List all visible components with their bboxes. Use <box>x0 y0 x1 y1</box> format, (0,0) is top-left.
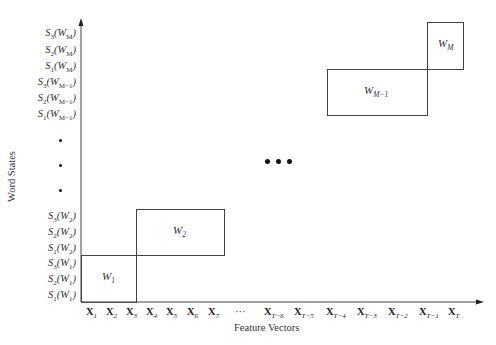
word-box-w2: W2 <box>136 209 225 256</box>
word-box-w1: W1 <box>81 255 137 303</box>
y-label: S1(WM) <box>45 60 76 76</box>
x-axis-title: Feature Vectors <box>234 322 299 333</box>
y-label: S3(WM) <box>45 27 76 43</box>
center-ellipsis-dot <box>276 159 281 164</box>
x-label: XT−2 <box>388 306 408 320</box>
y-label: S3(W2) <box>48 210 76 226</box>
x-label: XT−4 <box>326 306 346 320</box>
word-box-wm-1: WM−1 <box>327 69 428 116</box>
y-label: S1(W1) <box>48 289 76 305</box>
x-axis-arrow-icon <box>476 300 484 305</box>
y-label: S2(W1) <box>48 273 76 289</box>
x-label-ellipsis: ··· <box>235 306 246 317</box>
x-label: X7 <box>208 306 219 320</box>
word-box-wm: WM <box>427 22 464 70</box>
x-label: XT−3 <box>357 306 377 320</box>
y-axis-title: Word States <box>6 151 17 202</box>
x-label: X2 <box>106 306 117 320</box>
word-box-label: W2 <box>173 224 186 239</box>
x-label: XT <box>448 306 460 320</box>
x-label: X3 <box>126 306 137 320</box>
word-box-label: W1 <box>102 270 115 285</box>
y-label: S2(WM−1) <box>38 92 76 108</box>
y-label: S2(WM) <box>45 44 76 60</box>
vertical-ellipsis-dot <box>59 189 62 192</box>
x-label: XT−1 <box>419 306 439 320</box>
y-axis-arrow-icon <box>79 18 84 26</box>
x-label: X4 <box>146 306 157 320</box>
vertical-ellipsis-dot <box>59 139 62 142</box>
y-label: S3(W1) <box>48 257 76 273</box>
word-box-label: WM <box>438 37 453 52</box>
y-label: S1(W2) <box>48 242 76 258</box>
y-label: S1(WM−1) <box>38 108 76 124</box>
y-label: S3(WM−1) <box>38 76 76 92</box>
vertical-ellipsis-dot <box>59 164 62 167</box>
word-box-label: WM−1 <box>364 84 388 99</box>
x-label: X6 <box>187 306 198 320</box>
y-label: S2(W2) <box>48 226 76 242</box>
x-label: X1 <box>86 306 97 320</box>
center-ellipsis-dot <box>287 159 292 164</box>
x-label: XT−6 <box>264 306 284 320</box>
x-label: XT−5 <box>294 306 314 320</box>
center-ellipsis-dot <box>265 159 270 164</box>
x-label: X5 <box>166 306 177 320</box>
